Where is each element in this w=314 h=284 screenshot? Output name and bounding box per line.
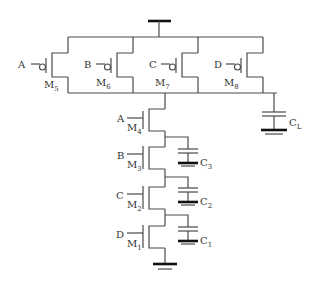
input-label-a: A xyxy=(17,59,26,70)
nand4-schematic: A M5 B M6 C M7 D M8 CL xyxy=(0,0,314,284)
input-label-b-nmos: B xyxy=(117,150,124,161)
capacitor-c3: C3 xyxy=(165,137,212,171)
capacitor-c2: C2 xyxy=(165,177,212,210)
transistor-label-m6: M6 xyxy=(96,77,111,91)
ground-symbol xyxy=(153,264,177,269)
capacitor-label-cl: CL xyxy=(289,117,302,131)
transistor-label-m5: M5 xyxy=(44,79,59,93)
input-label-a-nmos: A xyxy=(116,113,125,124)
pmos-m8: D M8 xyxy=(214,53,263,91)
input-label-d-nmos: D xyxy=(116,229,124,240)
input-label-b: B xyxy=(84,59,91,70)
transistor-label-m8: M8 xyxy=(224,77,239,91)
capacitor-c1: C1 xyxy=(165,215,212,249)
transistor-label-m4: M4 xyxy=(127,122,142,136)
capacitor-cl: CL xyxy=(261,93,302,134)
input-label-d: D xyxy=(214,59,222,70)
capacitor-label-c1: C1 xyxy=(200,235,212,249)
nmos-m4: A M4 xyxy=(116,109,165,136)
nmos-m3: B M3 xyxy=(117,146,165,173)
transistor-label-m7: M7 xyxy=(155,77,170,91)
transistor-label-m2: M2 xyxy=(127,199,142,213)
pmos-m7: C M7 xyxy=(149,53,198,91)
input-label-c: C xyxy=(149,59,157,70)
nmos-m1: D M1 xyxy=(116,225,165,252)
pmos-m5: A M5 xyxy=(17,53,68,93)
capacitor-label-c2: C2 xyxy=(200,196,212,210)
capacitor-label-c3: C3 xyxy=(200,157,212,171)
input-label-c-nmos: C xyxy=(116,190,124,201)
pmos-m6: B M6 xyxy=(84,53,133,91)
vdd-symbol xyxy=(148,21,171,37)
transistor-label-m3: M3 xyxy=(127,159,142,173)
transistor-label-m1: M1 xyxy=(127,238,142,252)
nmos-stack: A M4 B M3 C M2 D M1 xyxy=(116,93,165,264)
nmos-m2: C M2 xyxy=(116,186,165,213)
